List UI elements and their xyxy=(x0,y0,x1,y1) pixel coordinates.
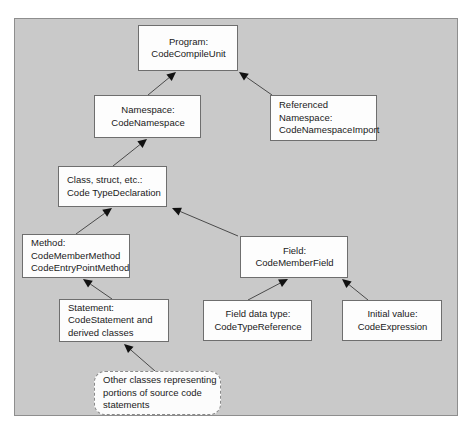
diagram-root: Program:CodeCompileUnitNamespace:CodeNam… xyxy=(0,0,472,439)
node-label-line: derived classes xyxy=(68,327,133,339)
node-label-line: Referenced xyxy=(279,99,328,111)
node-label-line: Code TypeDeclaration xyxy=(67,187,161,199)
node-label-line: Namespace: xyxy=(121,104,174,116)
node-label-line: CodeTypeReference xyxy=(214,321,301,333)
node-label-line: CodeEntryPointMethod xyxy=(31,262,129,274)
node-label-line: CodeMemberField xyxy=(255,257,333,269)
node-label-line: CodeExpression xyxy=(358,321,428,333)
node-namespace: Namespace:CodeNamespace xyxy=(94,95,201,138)
node-label-line: statements xyxy=(103,399,149,411)
node-referenced-namespace: ReferencedNamespace:CodeNamespaceImport xyxy=(270,95,377,141)
node-other-classes: Other classes representingportions of so… xyxy=(94,371,221,415)
node-label-line: Field data type: xyxy=(226,308,291,320)
node-label-line: CodeNamespaceImport xyxy=(279,124,379,136)
diagram-panel xyxy=(14,18,458,416)
node-label-line: Class, struct, etc.: xyxy=(67,174,143,186)
node-label-line: CodeNamespace xyxy=(111,117,184,129)
node-label-line: Namespace: xyxy=(279,112,332,124)
node-label-line: Initial value: xyxy=(367,308,417,320)
node-label-line: Statement: xyxy=(68,302,114,314)
node-type-declaration: Class, struct, etc.:Code TypeDeclaration xyxy=(58,166,167,207)
node-label-line: portions of source code xyxy=(103,387,202,399)
node-label-line: Field: xyxy=(283,245,306,257)
node-label-line: CodeMemberMethod xyxy=(31,250,120,262)
node-label-line: CodeStatement and xyxy=(68,314,153,326)
node-label-line: Method: xyxy=(31,237,65,249)
node-method: Method:CodeMemberMethodCodeEntryPointMet… xyxy=(22,234,130,278)
node-program: Program:CodeCompileUnit xyxy=(138,25,238,71)
node-field-data-type: Field data type:CodeTypeReference xyxy=(203,300,312,341)
node-statement: Statement:CodeStatement andderived class… xyxy=(59,299,169,342)
node-label-line: Program: xyxy=(169,36,208,48)
node-initial-value: Initial value:CodeExpression xyxy=(342,300,442,341)
node-label-line: CodeCompileUnit xyxy=(151,48,225,60)
node-label-line: Other classes representing xyxy=(103,374,217,386)
node-field: Field:CodeMemberField xyxy=(240,236,348,278)
